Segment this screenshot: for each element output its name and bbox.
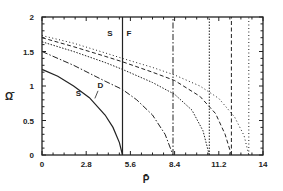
region-label: S xyxy=(107,29,113,38)
x-tick-label: 5.6 xyxy=(125,160,137,169)
y-tick-label: 0 xyxy=(30,151,35,160)
series-solid xyxy=(42,69,123,155)
series-dash-dot xyxy=(42,52,173,156)
label-leader-line xyxy=(95,91,98,99)
series-fine-dotted xyxy=(42,36,249,155)
y-axis-label: Ω̄ xyxy=(5,91,15,102)
x-tick-labels: 02.85.68.411.214 xyxy=(40,160,268,169)
plot-frame xyxy=(42,17,263,155)
x-tick-label: 8.4 xyxy=(169,160,181,169)
region-label: S xyxy=(76,89,82,98)
x-tick-label: 14 xyxy=(259,160,268,169)
x-tick-label: 0 xyxy=(40,160,45,169)
x-axis-label: P̄ xyxy=(143,174,150,185)
y-tick-label: 0.5 xyxy=(23,117,35,126)
x-tick-label: 11.2 xyxy=(211,160,227,169)
y-tick-label: 1 xyxy=(30,82,35,91)
region-label: D xyxy=(98,81,104,90)
y-tick-labels: 00.511.52 xyxy=(23,13,35,160)
x-tick-label: 2.8 xyxy=(81,160,93,169)
axis-ticks xyxy=(42,17,263,155)
series-dotted xyxy=(42,42,209,155)
y-tick-label: 2 xyxy=(30,13,35,22)
series-dashed xyxy=(42,38,231,155)
chart: 02.85.68.411.214 00.511.52 SDSF P̄ Ω̄ xyxy=(0,0,283,191)
y-tick-label: 1.5 xyxy=(23,48,35,57)
plot-area xyxy=(42,17,249,155)
region-label: F xyxy=(126,29,131,38)
